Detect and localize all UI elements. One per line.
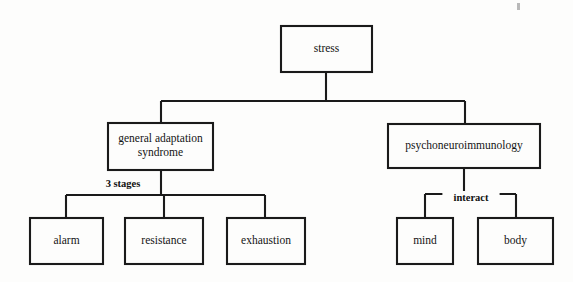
node-label-alarm: alarm [53,234,79,246]
node-label-exhaustion: exhaustion [241,234,291,246]
node-label-gas: general adaptation [118,132,203,145]
scan-speck-artifact [517,3,520,10]
node-label-resistance: resistance [141,234,186,246]
node-label-mind: mind [413,234,437,246]
node-mind[interactable]: mind [397,218,453,264]
node-alarm[interactable]: alarm [30,218,103,264]
node-pni[interactable]: psychoneuroimmunology [388,124,540,168]
node-gas[interactable]: general adaptationsyndrome [108,123,213,170]
diagram-canvas: 3 stagesinteract stressgeneral adaptatio… [0,0,573,282]
node-stress[interactable]: stress [281,26,372,72]
node-body[interactable]: body [478,218,553,264]
node-resistance[interactable]: resistance [125,218,203,264]
diagram-root: 3 stagesinteract stressgeneral adaptatio… [0,0,573,282]
edge-label-interact: interact [454,192,489,203]
node-label-gas: syndrome [138,146,183,159]
node-label-stress: stress [314,42,340,54]
edge-label-three-stages: 3 stages [106,178,141,189]
edge-labels-layer: 3 stagesinteract [94,177,499,207]
node-exhaustion[interactable]: exhaustion [227,218,305,264]
nodes-layer: stressgeneral adaptationsyndromepsychone… [30,26,553,264]
node-label-body: body [504,234,527,247]
node-label-pni: psychoneuroimmunology [405,139,523,152]
